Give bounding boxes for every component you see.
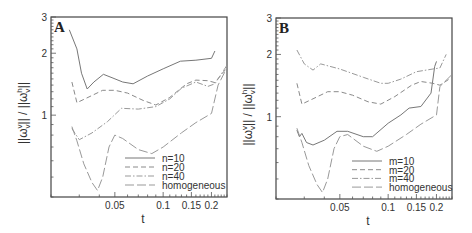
- x-tick-label: 0.05: [105, 200, 125, 211]
- plot-frame: [276, 18, 452, 199]
- series-line: [297, 75, 452, 193]
- x-tick-label: 0.2: [204, 200, 218, 211]
- x-tick-label: 0.1: [381, 202, 395, 213]
- chart-panel-a: 1230.050.10.150.2t||ωvv|| / ||ωvh||An=10…: [0, 0, 236, 233]
- panel-label: B: [279, 20, 289, 36]
- chart-panel-b: 1230.050.10.150.2t||ωvv|| / ||ωvh||Bm=10…: [236, 0, 472, 233]
- y-axis-label: ||ωvv|| / ||ωvh||: [15, 82, 32, 144]
- x-tick-label: 0.15: [182, 200, 202, 211]
- x-axis-label: t: [141, 212, 145, 226]
- legend-label: homogeneous: [389, 182, 452, 193]
- y-tick-label: 2: [266, 49, 272, 60]
- y-tick-label: 1: [266, 112, 272, 123]
- x-axis-label: t: [366, 214, 370, 228]
- x-tick-label: 0.2: [429, 202, 443, 213]
- y-axis-label: ||ωvv|| / ||ωvh||: [240, 83, 257, 145]
- y-tick-label: 3: [41, 12, 47, 23]
- panel-b: 1230.050.10.150.2t||ωvv|| / ||ωvh||Bm=10…: [236, 0, 472, 233]
- y-tick-label: 1: [41, 110, 47, 121]
- x-tick-label: 0.1: [156, 200, 170, 211]
- panel-a: 1230.050.10.150.2t||ωvv|| / ||ωvh||An=10…: [0, 0, 236, 233]
- y-tick-label: 3: [266, 13, 272, 24]
- legend-label: homogeneous: [162, 180, 225, 191]
- series-line: [69, 30, 215, 89]
- plot-frame: [51, 17, 227, 197]
- x-tick-label: 0.05: [330, 202, 350, 213]
- series-line: [72, 68, 227, 105]
- series-line: [297, 61, 437, 145]
- x-tick-label: 0.15: [407, 202, 427, 213]
- panel-label: A: [54, 19, 65, 35]
- series-line: [72, 68, 227, 191]
- series-line: [297, 50, 446, 83]
- y-tick-label: 2: [41, 48, 47, 59]
